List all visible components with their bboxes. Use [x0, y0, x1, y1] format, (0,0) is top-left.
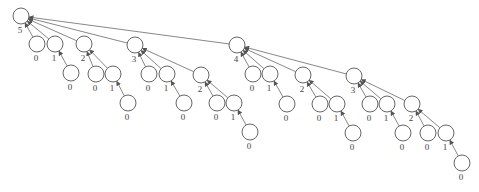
node-circle: [346, 68, 362, 84]
node-circle: [29, 36, 45, 52]
nodes-layer: 50102010301020104010201030102010: [13, 8, 470, 182]
node-degree-label: 2: [198, 84, 203, 94]
node-circle: [209, 95, 225, 111]
node-degree-label: 1: [384, 113, 389, 123]
tree-node: 3: [346, 68, 362, 95]
node-degree-label: 1: [443, 142, 448, 152]
node-degree-label: 2: [81, 53, 86, 63]
node-circle: [379, 96, 395, 112]
tree-node: 0: [63, 65, 79, 92]
node-circle: [226, 95, 242, 111]
tree-node: 0: [345, 125, 361, 152]
node-circle: [193, 67, 209, 83]
parent-pointer-edge: [138, 52, 145, 67]
node-degree-label: 2: [300, 84, 305, 94]
node-circle: [312, 96, 328, 112]
root-node: 5: [13, 8, 29, 35]
node-degree-label: 1: [110, 83, 115, 93]
tree-node: 1: [379, 96, 395, 123]
node-circle: [395, 125, 411, 141]
node-circle: [47, 36, 63, 52]
node-circle: [159, 66, 175, 82]
edges-layer: [25, 17, 458, 156]
tree-node: 3: [127, 37, 143, 64]
parent-pointer-edge: [117, 81, 125, 96]
tree-node: 1: [47, 36, 63, 63]
tree-node: 0: [88, 66, 104, 93]
tree-node: 4: [229, 37, 245, 64]
tree-node: 1: [159, 66, 175, 93]
node-circle: [76, 36, 92, 52]
parent-pointer-edge: [341, 111, 349, 126]
parent-pointer-edge: [238, 110, 246, 125]
node-circle: [13, 8, 29, 24]
node-degree-label: 1: [267, 83, 272, 93]
node-degree-label: 0: [350, 142, 355, 152]
node-degree-label: 0: [34, 53, 39, 63]
node-circle: [88, 66, 104, 82]
node-degree-label: 0: [146, 83, 151, 93]
node-degree-label: 1: [334, 113, 339, 123]
tree-node: 1: [105, 66, 121, 93]
tree-node: 1: [329, 96, 345, 123]
node-circle: [438, 125, 454, 141]
node-circle: [141, 66, 157, 82]
parent-pointer-edge: [59, 51, 67, 66]
parent-pointer-edge: [450, 140, 458, 156]
tree-node: 1: [262, 66, 278, 93]
node-degree-label: 0: [367, 113, 372, 123]
parent-pointer-edge: [171, 81, 180, 96]
parent-pointer-edge: [87, 51, 93, 66]
tree-node: 0: [420, 125, 436, 152]
parent-pointer-edge: [274, 81, 283, 97]
node-circle: [242, 124, 258, 140]
node-degree-label: 2: [409, 113, 414, 123]
tree-node: 0: [454, 155, 470, 182]
node-degree-label: 0: [93, 83, 98, 93]
node-degree-label: 3: [132, 54, 137, 64]
node-circle: [362, 96, 378, 112]
node-circle: [420, 125, 436, 141]
parent-pointer-edge: [391, 111, 399, 126]
tree-node: 0: [120, 95, 136, 122]
node-circle: [279, 96, 295, 112]
node-circle: [120, 95, 136, 111]
node-circle: [454, 155, 470, 171]
node-circle: [295, 67, 311, 83]
tree-node: 0: [242, 124, 258, 151]
node-degree-label: 0: [425, 142, 430, 152]
node-circle: [404, 96, 420, 112]
parent-pointer-edge: [307, 82, 316, 97]
node-circle: [127, 37, 143, 53]
tree-node: 2: [295, 67, 311, 94]
tree-node: 1: [226, 95, 242, 122]
node-circle: [329, 96, 345, 112]
node-circle: [262, 66, 278, 82]
tree-node: 0: [245, 66, 261, 93]
node-degree-label: 4: [234, 54, 239, 64]
tree-node: 0: [312, 96, 328, 123]
tree-node: 0: [141, 66, 157, 93]
node-degree-label: 1: [231, 112, 236, 122]
node-circle: [176, 95, 192, 111]
node-circle: [229, 37, 245, 53]
node-degree-label: 1: [52, 53, 57, 63]
node-degree-label: 1: [164, 83, 169, 93]
node-circle: [105, 66, 121, 82]
tree-node: 0: [395, 125, 411, 152]
node-degree-label: 0: [125, 112, 130, 122]
tree-node: 0: [29, 36, 45, 63]
tree-node: 2: [404, 96, 420, 123]
node-degree-label: 3: [351, 85, 356, 95]
node-degree-label: 0: [247, 141, 252, 151]
node-degree-label: 0: [317, 113, 322, 123]
node-degree-label: 0: [459, 172, 464, 182]
node-circle: [345, 125, 361, 141]
tree-node: 0: [279, 96, 295, 123]
node-degree-label: 0: [214, 112, 219, 122]
node-degree-label: 0: [181, 112, 186, 122]
tree-node: 2: [193, 67, 209, 94]
node-degree-label: 0: [250, 83, 255, 93]
tree-node: 0: [362, 96, 378, 123]
binomial-tree-diagram: 50102010301020104010201030102010: [0, 0, 479, 192]
